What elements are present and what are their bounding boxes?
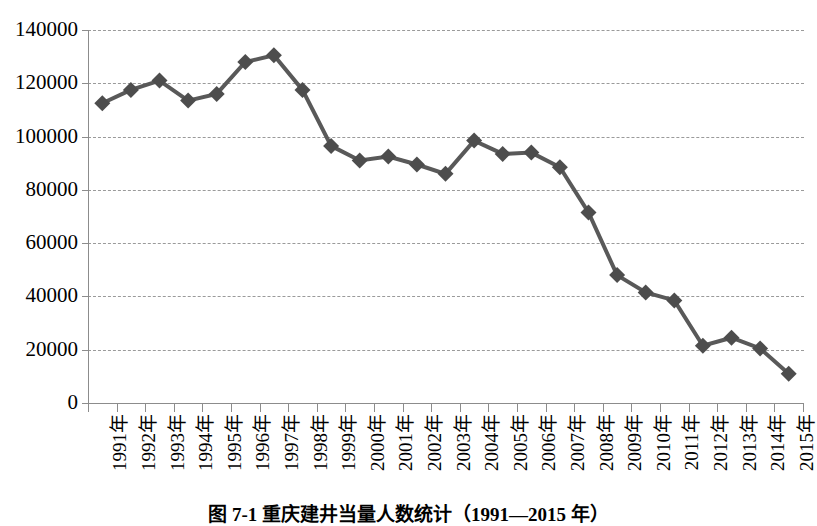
data-point-marker bbox=[94, 95, 110, 111]
series-line bbox=[102, 55, 788, 373]
data-point-marker bbox=[724, 330, 740, 346]
data-point-marker bbox=[523, 145, 539, 161]
data-point-marker bbox=[495, 146, 511, 162]
data-point-marker bbox=[323, 138, 339, 154]
figure-caption: 图 7-1 重庆建井当量人数统计（1991—2015 年） bbox=[0, 503, 817, 526]
data-point-marker bbox=[123, 82, 139, 98]
data-point-marker bbox=[352, 153, 368, 169]
data-point-marker bbox=[409, 157, 425, 173]
data-point-marker bbox=[380, 149, 396, 165]
